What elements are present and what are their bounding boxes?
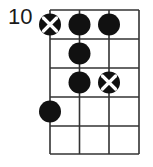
finger-dot-icon [69,72,91,94]
finger-dot-icon [98,14,120,36]
fretboard-grid [0,0,153,167]
finger-dot-icon [69,14,91,36]
finger-dot-icon [39,101,61,123]
finger-dot-icon [69,43,91,65]
